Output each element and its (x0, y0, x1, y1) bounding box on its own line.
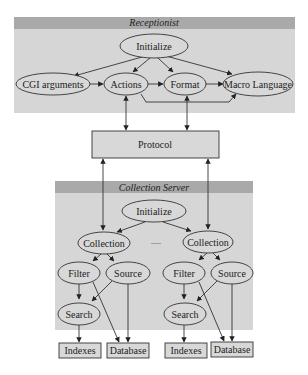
protocol-box: Protocol (92, 131, 219, 158)
svg-text:Source: Source (114, 268, 142, 279)
store-database-left: Database (107, 343, 149, 358)
architecture-diagram: Receptionist Collection Server Initializ… (0, 0, 308, 375)
svg-text:Database: Database (110, 345, 147, 356)
node-actions: Actions (104, 73, 148, 95)
node-search-right: Search (164, 303, 206, 325)
receptionist-title: Receptionist (128, 17, 179, 28)
svg-text:Collection: Collection (83, 238, 125, 249)
node-initialize-collection-server: Initialize (122, 200, 186, 222)
store-database-right: Database (211, 342, 253, 357)
svg-text:Filter: Filter (68, 268, 90, 279)
node-filter-left: Filter (58, 262, 100, 284)
svg-text:Search: Search (171, 309, 198, 320)
svg-text:Actions: Actions (110, 79, 141, 90)
svg-text:Initialize: Initialize (136, 41, 172, 52)
node-filter-right: Filter (163, 262, 205, 284)
node-macro-language: Macro Language (223, 72, 293, 96)
svg-text:Initialize: Initialize (136, 206, 172, 217)
svg-text:Database: Database (214, 344, 251, 355)
node-collection-left: Collection (78, 232, 130, 254)
node-search-left: Search (58, 303, 100, 325)
svg-text:Indexes: Indexes (64, 345, 95, 356)
node-format: Format (164, 73, 206, 95)
svg-text:Indexes: Indexes (170, 345, 201, 356)
node-initialize-receptionist: Initialize (120, 34, 188, 58)
node-cgi-arguments: CGI arguments (16, 73, 90, 95)
receptionist-panel: Receptionist (14, 17, 295, 113)
svg-text:Collection: Collection (187, 237, 229, 248)
node-collection-right: Collection (183, 231, 233, 253)
node-source-left: Source (106, 262, 150, 284)
svg-text:CGI arguments: CGI arguments (22, 79, 83, 90)
svg-text:Search: Search (65, 309, 92, 320)
svg-text:Protocol: Protocol (138, 139, 172, 150)
node-source-right: Source (211, 262, 253, 284)
svg-text:Format: Format (171, 79, 200, 90)
store-indexes-right: Indexes (165, 343, 207, 358)
svg-text:Filter: Filter (173, 268, 195, 279)
store-indexes-left: Indexes (59, 343, 101, 358)
svg-text:Macro Language: Macro Language (224, 79, 293, 90)
collection-server-title: Collection Server (119, 182, 189, 193)
collection-ellipsis: ..... (151, 237, 161, 246)
svg-text:Source: Source (218, 268, 246, 279)
